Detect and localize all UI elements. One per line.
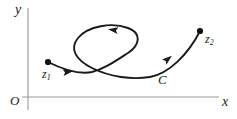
endpoint-dot-z1: [45, 59, 51, 65]
contour-figure: y x O z1 z2 C: [0, 0, 237, 119]
x-axis-label-text: x: [222, 94, 228, 109]
origin-label-text: O: [10, 93, 19, 108]
arrow-loop-top-icon: [108, 26, 119, 34]
curve-name-label-text: C: [158, 72, 167, 87]
y-axis-label-text: y: [15, 2, 21, 17]
curve-name-label: C: [158, 73, 167, 86]
origin-label: O: [10, 94, 19, 107]
start-point-label-subscript: 1: [47, 73, 51, 82]
figure-canvas: [0, 0, 237, 119]
x-axis-label: x: [222, 95, 228, 109]
start-point-label-text: z: [42, 67, 47, 81]
y-axis-label: y: [15, 3, 21, 17]
end-point-label-subscript: 2: [210, 38, 214, 47]
arrow-ascending-icon: [162, 53, 174, 65]
contour-curve-path: [48, 25, 200, 78]
start-point-label: z1: [42, 68, 51, 80]
endpoint-dot-z2: [197, 28, 203, 34]
end-point-label-text: z: [205, 32, 210, 46]
end-point-label: z2: [205, 33, 214, 45]
